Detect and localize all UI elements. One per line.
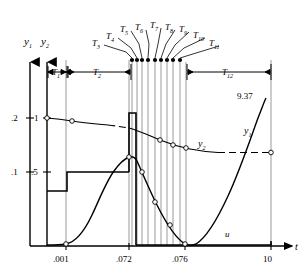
y1-ticklabel-02: .2: [11, 113, 18, 123]
leader-T9: [167, 32, 189, 58]
arrow-T12-right: [265, 70, 270, 75]
series-y2: [47, 118, 271, 153]
interval-label-T1: T1: [52, 67, 60, 79]
arrow-T12-left: [188, 70, 193, 75]
switch-label-T10: T10: [193, 30, 204, 42]
leader-T6: [146, 30, 149, 58]
leader-T4: [118, 38, 137, 58]
switch-label-T6: T6: [135, 22, 143, 34]
x-ticklabel-001: .001: [53, 254, 69, 264]
switch-dot-5: [140, 58, 144, 62]
t-axis-label: t: [295, 241, 298, 252]
y1-final-rise: [185, 98, 266, 246]
u-step-low: [47, 172, 129, 191]
switch-label-T5: T5: [120, 24, 128, 36]
leader-T3: [104, 45, 132, 58]
switch-label-T4: T4: [106, 31, 114, 43]
switch-dot-6: [146, 58, 150, 62]
switch-label-T8: T8: [165, 22, 173, 34]
y2-point-3: [171, 143, 176, 148]
u-axis-label: u: [35, 56, 40, 66]
y1-point-2: [153, 200, 158, 205]
leader-T8: [161, 30, 175, 58]
y1-rise-to-peak: [47, 157, 129, 245]
x-ticklabel-076: .076: [172, 254, 188, 264]
leader-T5: [131, 31, 142, 58]
switch-label-T3: T3: [92, 38, 100, 50]
switch-dot-11: [178, 58, 182, 62]
interval-label-T2: T2: [93, 67, 101, 79]
y2-seg-dashed-1: [108, 125, 129, 128]
switch-label-T11: T11: [209, 38, 220, 50]
leader-T7: [155, 28, 161, 58]
y1-ticklabel-01: .1: [11, 167, 18, 177]
switch-markers: [130, 58, 182, 62]
x-ticklabel-10: 10: [263, 254, 273, 264]
y2-point-0: [45, 116, 50, 121]
switch-label-T7: T7: [150, 20, 159, 32]
switch-dot-10: [171, 58, 175, 62]
switch-label-T9: T9: [179, 24, 187, 36]
switch-dot-8: [159, 58, 163, 62]
series-u: [47, 113, 271, 245]
switch-dot-7: [153, 58, 157, 62]
y2-ticklabel-1: 1: [34, 113, 39, 123]
x-ticklabel-072: .072: [116, 254, 132, 264]
arrow-T2-right: [125, 70, 130, 75]
curve-label-y1: y1: [243, 125, 251, 138]
y1-axis-label: y1: [23, 35, 32, 49]
interval-label-T12: T12: [222, 67, 233, 79]
arrow-T2-left: [69, 70, 74, 75]
plot-svg: y1 y2 u t .2 .1 1 .5 .001 .072 .076 10 T…: [0, 0, 305, 277]
curve-label-u: u: [225, 229, 230, 239]
arrow-T1-right: [61, 70, 66, 75]
curve-label-y2: y2: [197, 138, 205, 151]
y1-point-0: [64, 242, 69, 247]
switch-dot-9: [165, 58, 169, 62]
switch-dot-3: [130, 58, 134, 62]
y2-axis-label: y2: [40, 35, 49, 49]
y2-point-1: [70, 119, 75, 124]
figure-canvas: y1 y2 u t .2 .1 1 .5 .001 .072 .076 10 T…: [0, 0, 305, 277]
y1-point-zero: [183, 242, 188, 247]
annotation-peak-value: 9.37: [237, 91, 253, 101]
y2-point-4: [184, 146, 189, 151]
y1-point-peak: [127, 155, 132, 160]
switch-dot-4: [135, 58, 139, 62]
y2-seg-1: [47, 118, 108, 125]
y2-point-end: [269, 150, 274, 155]
y2-ticklabel-05: .5: [31, 167, 38, 177]
interval-brackets: [47, 64, 271, 80]
y2-point-2: [158, 138, 163, 143]
y1-point-1: [140, 170, 145, 175]
y1-point-3: [168, 223, 173, 228]
